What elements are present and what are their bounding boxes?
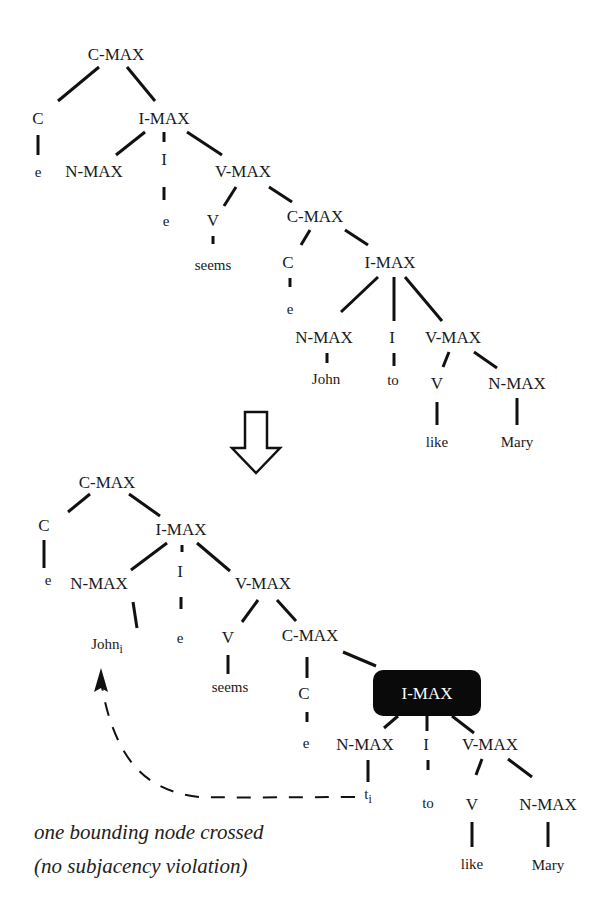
top-edge	[224, 187, 236, 206]
top-edge	[269, 187, 292, 202]
tree-node-t-i: I	[161, 150, 167, 169]
syntax-tree-diagram: C-MAXCeI-MAXN-MAXIeV-MAXVseemsC-MAXCeI-M…	[0, 0, 604, 920]
tree-node-t-mary: Mary	[501, 434, 534, 450]
coindex-subscript: i	[120, 642, 124, 656]
tree-node-t-v: V	[207, 211, 220, 230]
tree-node-b-vmax: V-MAX	[235, 574, 291, 593]
top-edge	[405, 277, 442, 321]
tree-node-b-nmax: N-MAX	[70, 574, 128, 593]
tree-node-b-mary: Mary	[532, 857, 565, 873]
tree-node-b-cmax2: C-MAX	[282, 626, 339, 645]
bottom-edge	[384, 716, 398, 728]
top-edge	[127, 67, 155, 101]
tree-node-t-c2: C	[282, 253, 293, 272]
down-arrow-icon	[232, 412, 280, 473]
tree-node-t-nmax2: N-MAX	[295, 328, 353, 347]
tree-node-t-imax2: I-MAX	[365, 253, 416, 272]
top-edge	[474, 352, 497, 368]
tree-node-b-like: like	[461, 856, 484, 872]
top-tree-d-structure: C-MAXCeI-MAXN-MAXIeV-MAXVseemsC-MAXCeI-M…	[32, 45, 545, 450]
tree-node-b-seems: seems	[212, 679, 249, 695]
tree-node-b-cmax: C-MAX	[79, 473, 136, 492]
tree-node-t-v2: V	[431, 374, 444, 393]
tree-node-t-like: like	[426, 434, 449, 450]
tree-node-t-nmax3: N-MAX	[488, 374, 546, 393]
tree-node-b-to: to	[422, 795, 434, 811]
top-edge	[58, 67, 99, 101]
top-edge	[345, 230, 368, 245]
tree-node-b-nmax2: N-MAX	[336, 735, 394, 754]
tree-node-t-nmax: N-MAX	[65, 162, 123, 181]
tree-node-b-c-e: e	[45, 572, 52, 588]
bounding-node-label: I-MAX	[402, 684, 453, 703]
tree-node-b-imax: I-MAX	[156, 520, 207, 539]
tree-node-b-c2: C	[298, 684, 309, 703]
top-edge	[443, 352, 449, 367]
bottom-edge	[343, 652, 376, 666]
tree-node-b-vmax2: V-MAX	[462, 735, 518, 754]
tree-node-b-i2: I	[423, 735, 429, 754]
tree-node-t-cmax2: C-MAX	[287, 207, 344, 226]
bottom-edge	[197, 543, 230, 571]
tree-node-b-i-e: e	[177, 630, 184, 646]
tree-node-t-i2: I	[389, 328, 395, 347]
bottom-edge	[133, 602, 137, 628]
bounding-node-highlight: I-MAX	[373, 670, 481, 716]
tree-node-t-imax: I-MAX	[139, 109, 190, 128]
tree-node-b-nmax3: N-MAX	[519, 795, 577, 814]
tree-node-t-vmax2: V-MAX	[425, 328, 481, 347]
tree-node-b-c2-e: e	[303, 735, 310, 751]
caption: one bounding node crossed (no subjacency…	[34, 820, 264, 878]
caption-line-1: one bounding node crossed	[34, 820, 264, 844]
bottom-edge	[129, 494, 160, 516]
tree-node-t-to: to	[387, 372, 399, 388]
top-edge	[187, 132, 222, 155]
bottom-edge	[68, 494, 90, 512]
coindex-subscript: i	[368, 792, 372, 806]
tree-node-b-v2: V	[466, 795, 479, 814]
movement-arrowhead-icon	[94, 668, 108, 692]
tree-node-b-c: C	[38, 516, 49, 535]
tree-node-t-c2-e: e	[287, 301, 294, 317]
tree-node-t-c: C	[32, 109, 43, 128]
tree-node-t-seems: seems	[195, 257, 232, 273]
caption-line-2: (no subjacency violation)	[34, 854, 247, 878]
bottom-edge	[452, 716, 474, 733]
movement-dashed-line	[101, 680, 355, 797]
tree-node-b-ti: ti	[364, 786, 372, 806]
tree-node-t-c-e: e	[35, 164, 42, 180]
tree-node-t-i-e: e	[163, 213, 170, 229]
bottom-tree-s-structure: I-MAX C-MAXCeI-MAXN-MAXJohniIeV-MAXVseem…	[38, 473, 576, 873]
top-edge	[301, 230, 310, 245]
tree-node-b-john: Johni	[91, 636, 123, 656]
tree-node-b-i: I	[177, 562, 183, 581]
bottom-edge	[277, 600, 296, 621]
bottom-edge	[131, 543, 167, 570]
top-edge	[341, 277, 378, 312]
tree-node-t-john: John	[312, 371, 341, 387]
tree-node-t-cmax: C-MAX	[88, 45, 145, 64]
tree-node-t-vmax: V-MAX	[215, 162, 271, 181]
tree-node-b-v: V	[222, 628, 235, 647]
bottom-edge	[476, 759, 482, 775]
bottom-edge	[242, 600, 258, 622]
top-tree-nodes: C-MAXCeI-MAXN-MAXIeV-MAXVseemsC-MAXCeI-M…	[32, 45, 545, 450]
top-edge	[116, 132, 145, 155]
top-tree-edges	[38, 67, 517, 425]
bottom-edge	[508, 759, 532, 777]
